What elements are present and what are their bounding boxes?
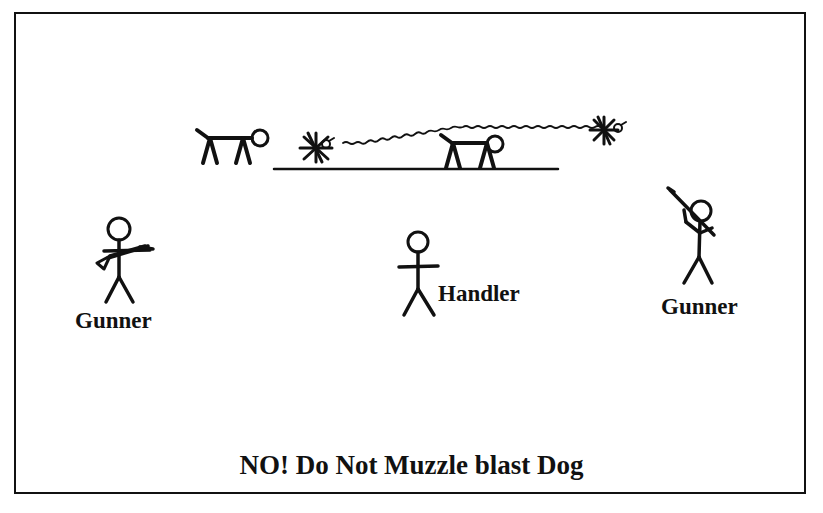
bird-burst-icon-end bbox=[590, 117, 626, 144]
handler-figure-icon bbox=[399, 232, 438, 315]
handler-label: Handler bbox=[438, 282, 520, 305]
gunner-left-figure-icon bbox=[97, 218, 153, 302]
dog-icon-left bbox=[197, 130, 268, 163]
gunner-right-figure-icon bbox=[668, 188, 714, 283]
bird-burst-icon-start bbox=[300, 133, 334, 162]
dog-icon-center bbox=[441, 135, 503, 168]
gunner-right-label: Gunner bbox=[661, 295, 738, 318]
gunner-left-label: Gunner bbox=[75, 309, 152, 332]
diagram-caption: NO! Do Not Muzzle blast Dog bbox=[0, 452, 823, 479]
diagram-artwork bbox=[0, 0, 823, 513]
